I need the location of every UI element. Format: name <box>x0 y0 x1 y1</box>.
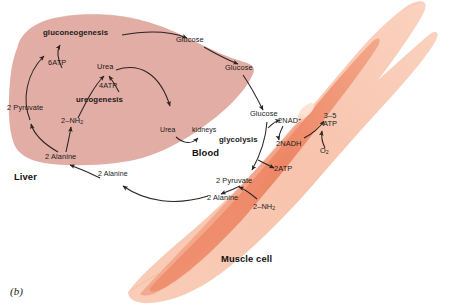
label-blood-alanine: 2 Alanine <box>98 170 128 177</box>
arrow-blood-alanine-to-liver <box>70 165 100 178</box>
label-muscle-nh2-sub: 2 <box>272 205 275 211</box>
label-2atp: 2ATP <box>274 165 292 172</box>
label-6atp: 6ATP <box>48 59 66 66</box>
label-blood-glucose: Glucose <box>225 64 253 71</box>
arrow-muscle-alanine-to-blood <box>123 186 208 201</box>
label-glycolysis: glycolysis <box>219 136 258 144</box>
label-liver-nh2: 2–NH2 <box>61 117 83 125</box>
label-muscle-pyruvate: 2 Pyruvate <box>216 177 252 184</box>
label-liver-glucose: Glucose <box>176 36 204 43</box>
label-region-liver: Liver <box>14 172 37 181</box>
label-liver-nh2-text: 2–NH <box>61 116 80 125</box>
label-muscle-nh2: 2–NH2 <box>253 203 275 211</box>
label-2nadh: 2NADH <box>276 140 302 147</box>
glucose-alanine-cycle-figure: gluconeogenesis 6ATP 2 Pyruvate Urea 4AT… <box>0 0 453 306</box>
label-o2-sub: 2 <box>326 149 329 155</box>
label-blood-urea: Urea <box>160 126 176 133</box>
label-gluconeogenesis: gluconeogenesis <box>43 29 108 37</box>
liver-shape <box>9 14 254 165</box>
label-2nad-plus: 2NAD+ <box>278 117 301 124</box>
label-liver-alanine: 2 Alanine <box>45 153 76 160</box>
label-4atp: 4ATP <box>99 82 117 89</box>
label-liver-nh2-sub: 2 <box>80 119 83 125</box>
label-kidneys: kidneys <box>192 126 216 133</box>
label-o2: O2 <box>320 147 329 155</box>
label-muscle-glucose: Glucose <box>250 110 278 117</box>
label-muscle-alanine: 2 Alanine <box>207 194 238 201</box>
arrow-nad-ox-to-nadh <box>279 126 283 140</box>
label-liver-pyruvate: 2 Pyruvate <box>7 104 43 111</box>
label-region-muscle-cell: Muscle cell <box>221 254 272 263</box>
figure-caption: (b) <box>10 285 23 297</box>
label-muscle-nh2-text: 2–NH <box>253 202 272 211</box>
label-liver-urea: Urea <box>97 63 113 70</box>
label-2nad-sup: + <box>298 116 301 122</box>
label-region-blood: Blood <box>192 148 219 157</box>
arrow-blood-glucose-to-muscle <box>243 75 263 110</box>
label-3-5-atp: 3–5 ATP <box>323 112 337 129</box>
label-ureogenesis: ureogenesis <box>76 96 123 104</box>
label-2nad-text: 2NAD <box>278 116 298 125</box>
